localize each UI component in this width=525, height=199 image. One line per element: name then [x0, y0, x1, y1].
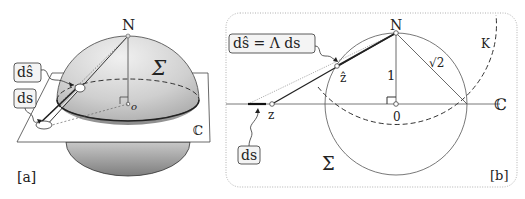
point-origin	[394, 102, 399, 107]
panel-a: N Σ ℂ o dŝ ds [a]	[14, 16, 210, 185]
label-plane-b: ℂ	[494, 95, 507, 114]
label-radius-one: 1	[387, 68, 395, 83]
label-north-a: N	[122, 16, 135, 34]
label-sqrt2: √2	[429, 56, 444, 70]
label-z: z	[268, 108, 274, 122]
callout-ds-b-text: ds	[241, 147, 257, 163]
panel-a-tag: [a]	[17, 169, 36, 185]
label-zhat: ẑ	[340, 71, 346, 85]
panel-b-tag: [b]	[490, 168, 508, 183]
panel-b: N 1 √2 K 0 ℂ z ẑ Σ dŝ = Λ ds ds [b]	[226, 13, 517, 187]
label-plane-a: ℂ	[193, 123, 203, 138]
point-z	[270, 102, 275, 107]
circle-k-dashed	[318, 15, 496, 124]
label-k: K	[481, 37, 491, 51]
stereographic-projection-figure: N Σ ℂ o dŝ ds [a]	[0, 0, 525, 199]
label-north-b: N	[390, 17, 402, 33]
callout-dshat-a-text: dŝ	[17, 64, 33, 80]
point-zhat	[335, 64, 340, 69]
lower-hemisphere	[66, 142, 190, 176]
label-sigma-a: Σ	[151, 56, 167, 80]
callout-ds-a-text: ds	[17, 90, 33, 106]
label-sigma-b: Σ	[322, 153, 335, 174]
callout-dshat-eq-text: dŝ = Λ ds	[233, 35, 300, 51]
label-origin-b: 0	[393, 110, 401, 124]
label-origin-a: o	[131, 101, 137, 112]
